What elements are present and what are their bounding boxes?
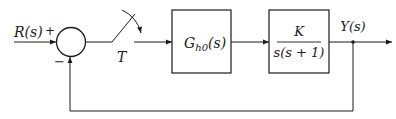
plant-denominator: s(s + 1) [274,45,325,60]
plant-block [269,10,329,73]
block-diagram: R(s) + − T Gh0(s) K s(s + 1) Y(s) [0,0,396,119]
plant-numerator: K [293,24,305,39]
plus-sign: + [45,24,55,38]
sampler-switch-icon [112,10,141,42]
sampler-label: T [117,49,128,65]
output-label: Y(s) [340,19,365,34]
input-label: R(s) [13,24,43,40]
summing-junction [57,28,86,57]
minus-sign: − [54,54,65,69]
